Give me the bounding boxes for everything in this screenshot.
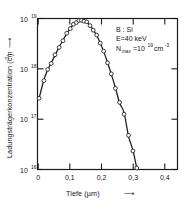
data-point (127, 133, 131, 137)
x-axis-title: Tiefe (µm) (66, 189, 100, 198)
data-point (53, 53, 57, 57)
data-point (114, 86, 118, 90)
data-point (61, 39, 65, 43)
x-tick-label: 0 (36, 174, 40, 181)
y-tick-label: 10 (20, 66, 28, 73)
y-axis-title-exponent: -3 (4, 57, 10, 62)
annotation-material-system: B : Si (116, 26, 133, 33)
x-axis-arrow: ⟶ (124, 189, 134, 198)
x-tick-label: 0,3 (128, 174, 138, 181)
y-tick-exponent: 18 (31, 63, 37, 69)
annotation-peak-exponent: 19 (148, 42, 154, 48)
x-tick-label: 0,1 (65, 174, 75, 181)
annotation-implant-energy: E=40 keV (116, 35, 147, 42)
data-point (85, 20, 89, 24)
y-tick-exponent: 16 (31, 164, 37, 170)
data-point (88, 24, 92, 28)
y-tick-exponent: 19 (31, 13, 37, 19)
y-tick-label: 10 (20, 16, 28, 23)
x-tick-label: 0,2 (97, 174, 107, 181)
data-point (37, 96, 41, 100)
data-point (91, 28, 95, 32)
data-point (95, 33, 99, 37)
y-axis-arrow: ⟶ (5, 38, 14, 48)
data-point (98, 41, 102, 45)
annotation-peak-unit-exponent: -3 (165, 42, 170, 48)
data-point (68, 27, 72, 31)
data-point (102, 49, 106, 53)
data-point (122, 112, 126, 116)
data-point (106, 61, 110, 65)
y-tick-label: 10 (20, 116, 28, 123)
annotation-peak-unit: cm (154, 45, 164, 52)
data-point (49, 62, 53, 66)
carrier-concentration-plot: 10 19 10 18 10 17 10 16 0 0,1 0,2 0,3 0,… (0, 0, 191, 212)
annotation-peak-subscript: max (122, 49, 131, 54)
y-axis-title-suffix: ) (5, 54, 14, 57)
data-point (42, 79, 46, 83)
x-tick-label: 0,4 (160, 174, 170, 181)
data-point (135, 166, 139, 170)
data-point (65, 31, 69, 35)
data-point (118, 100, 122, 104)
y-tick-exponent: 17 (31, 113, 37, 119)
data-point (57, 46, 61, 50)
annotation-peak-prefix: N (116, 45, 121, 52)
data-point (131, 149, 135, 153)
data-point (46, 68, 50, 72)
annotation-peak-mid: =10 (133, 45, 145, 52)
y-axis-title: Ladungsträgerkonzentration (cm (5, 52, 14, 158)
figure-panel: 10 19 10 18 10 17 10 16 0 0,1 0,2 0,3 0,… (0, 0, 191, 212)
data-point (109, 72, 113, 76)
y-axis-title-group: Ladungsträgerkonzentration (cm -3 ) ⟶ (4, 38, 14, 158)
y-tick-label: 10 (20, 167, 28, 174)
